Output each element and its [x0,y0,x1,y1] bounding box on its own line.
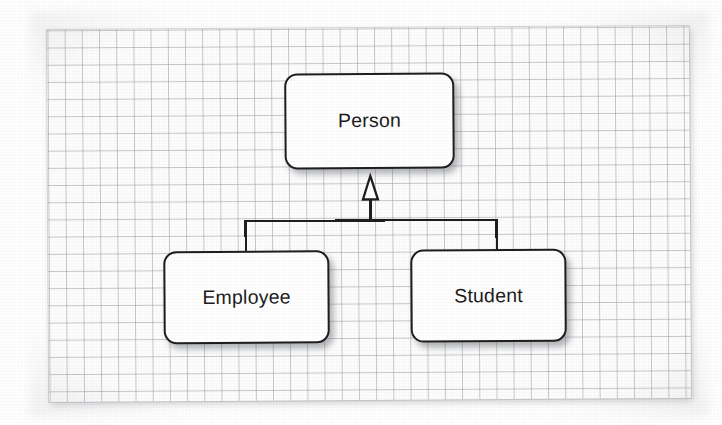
diagram-layer: Person Employee Student [0,0,722,425]
connector-lines [0,0,722,425]
uml-class-box-student[interactable]: Student [410,249,567,343]
uml-class-label-employee: Employee [202,287,290,307]
hollow-triangle-arrowhead-icon [363,176,378,200]
uml-class-box-employee[interactable]: Employee [163,250,330,344]
canvas-tilt-wrapper: Person Employee Student [0,0,722,425]
uml-class-box-person[interactable]: Person [284,72,455,169]
uml-class-label-person: Person [338,111,401,131]
uml-class-label-student: Student [454,286,523,306]
generalization-crossbar [244,220,498,222]
